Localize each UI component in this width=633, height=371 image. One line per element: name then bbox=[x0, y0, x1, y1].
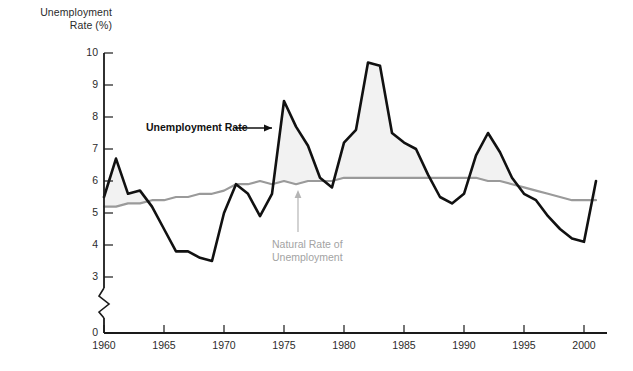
x-tick-label-1965: 1965 bbox=[144, 339, 184, 351]
x-tick-label-1975: 1975 bbox=[264, 339, 304, 351]
x-tick-label-1960: 1960 bbox=[84, 339, 124, 351]
natural-rate-annotation-arrow bbox=[295, 190, 302, 232]
natural-rate-annotation-label: Natural Rate of Unemployment bbox=[272, 238, 343, 264]
x-tick-label-1995: 1995 bbox=[504, 339, 544, 351]
unemployment-rate-annotation-label: Unemployment Rate bbox=[146, 121, 248, 133]
y-tick-label-9: 9 bbox=[76, 78, 98, 90]
natural-rate-annotation-line2: Unemployment bbox=[272, 251, 343, 263]
y-tick-label-3: 3 bbox=[76, 270, 98, 282]
natural-rate-annotation-line1: Natural Rate of bbox=[272, 238, 343, 250]
x-tick-label-2000: 2000 bbox=[564, 339, 604, 351]
y-tick-label-6: 6 bbox=[76, 174, 98, 186]
x-tick-label-1980: 1980 bbox=[324, 339, 364, 351]
y-tick-label-0: 0 bbox=[76, 326, 98, 338]
y-tick-label-7: 7 bbox=[76, 142, 98, 154]
y-tick-label-4: 4 bbox=[76, 238, 98, 250]
y-tick-label-5: 5 bbox=[76, 206, 98, 218]
x-tick-label-1990: 1990 bbox=[444, 339, 484, 351]
chart-axes bbox=[99, 53, 607, 333]
y-tick-label-8: 8 bbox=[76, 110, 98, 122]
unemployment-chart-figure: Unemployment Rate (%) 0345678910 1960196… bbox=[0, 0, 633, 371]
y-tick-label-10: 10 bbox=[76, 46, 98, 58]
x-tick-label-1985: 1985 bbox=[384, 339, 424, 351]
x-tick-label-1970: 1970 bbox=[204, 339, 244, 351]
